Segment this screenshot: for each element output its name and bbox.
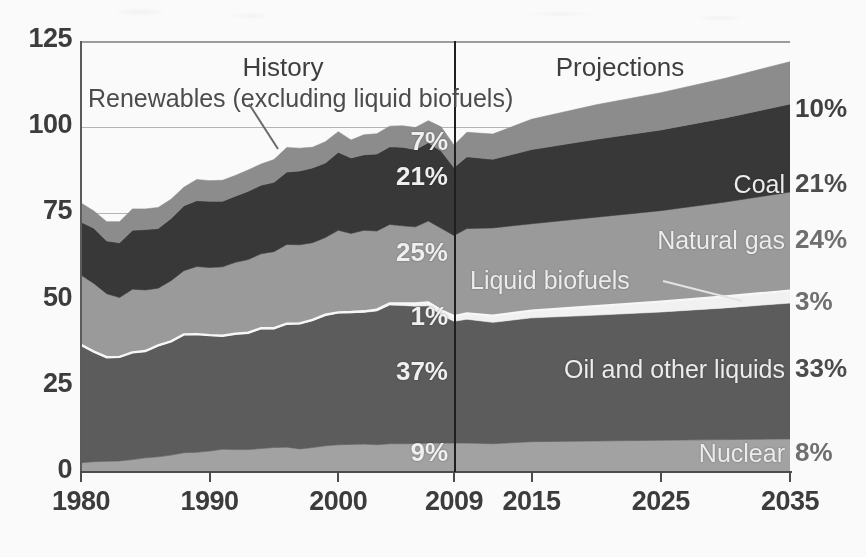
pct-2035-renewables: 10%: [795, 93, 847, 124]
x-tick-2000: [337, 473, 339, 482]
pct-2035-nuclear: 8%: [795, 437, 833, 468]
scan-noise-overlay: [0, 0, 866, 26]
pct-2009-liquid-biofuels: 1%: [410, 301, 448, 332]
series-label-natural-gas: Natural gas: [657, 226, 785, 255]
series-label-liquid-biofuels: Liquid biofuels: [470, 266, 630, 295]
x-tick-label-2009: 2009: [425, 486, 483, 517]
annotation-renewables-label: Renewables (excluding liquid biofuels): [88, 84, 513, 113]
x-axis-line: [80, 471, 792, 473]
pct-2009-coal: 21%: [396, 161, 448, 192]
y-axis-line: [80, 41, 82, 473]
x-tick-2035: [789, 473, 791, 482]
pct-2009-natural-gas: 25%: [396, 237, 448, 268]
x-tick-label-1980: 1980: [52, 486, 110, 517]
x-tick-label-2000: 2000: [309, 486, 367, 517]
x-tick-label-2035: 2035: [761, 486, 819, 517]
series-label-nuclear: Nuclear: [699, 439, 785, 468]
pct-2009-oil: 37%: [396, 356, 448, 387]
period-label-projections: Projections: [556, 52, 685, 83]
series-label-coal: Coal: [734, 170, 785, 199]
pct-2035-coal: 21%: [795, 168, 847, 199]
stacked-area-chart: 1251007550250 19801990200020092015202520…: [0, 0, 866, 557]
pct-2035-oil: 33%: [795, 353, 847, 384]
pct-2035-liquid-biofuels: 3%: [795, 286, 833, 317]
x-tick-label-1990: 1990: [181, 486, 239, 517]
x-tick-1990: [209, 473, 211, 482]
y-tick-label-0: 0: [2, 454, 72, 485]
pct-2009-nuclear: 9%: [410, 437, 448, 468]
y-tick-label-50: 50: [2, 282, 72, 313]
y-tick-label-75: 75: [2, 195, 72, 226]
y-tick-label-125: 125: [2, 23, 72, 54]
pct-2035-natural-gas: 24%: [795, 224, 847, 255]
series-label-oil: Oil and other liquids: [564, 355, 785, 384]
x-tick-label-2025: 2025: [632, 486, 690, 517]
x-tick-2015: [531, 473, 533, 482]
y-tick-label-25: 25: [2, 368, 72, 399]
x-tick-2009: [453, 473, 455, 482]
period-label-history: History: [243, 52, 324, 83]
pct-2009-renewables: 7%: [410, 126, 448, 157]
y-tick-label-100: 100: [2, 109, 72, 140]
x-tick-2025: [660, 473, 662, 482]
x-tick-label-2015: 2015: [502, 486, 560, 517]
x-tick-1980: [80, 473, 82, 482]
